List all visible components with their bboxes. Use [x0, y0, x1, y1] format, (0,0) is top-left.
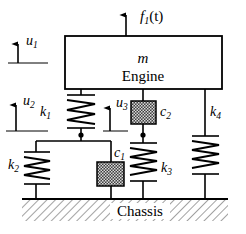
engine-mass-symbol: m	[138, 50, 149, 66]
displacement-indicator-u3: u3	[103, 95, 128, 131]
spring-label-k4: k4	[210, 104, 221, 121]
engine-mount-diagram: f1(t) u1 m Engine k	[0, 0, 246, 234]
spring-label-k1: k1	[40, 104, 51, 121]
spring-k4-coil	[192, 141, 219, 168]
spring-label-k2: k2	[8, 157, 19, 174]
spring-k3-coil	[130, 148, 157, 175]
force-arrow-f1: f1(t)	[126, 8, 163, 36]
spring-k2-coil	[24, 157, 50, 179]
engine-mass-block: m Engine	[65, 36, 222, 89]
damper-c2-body	[131, 101, 156, 124]
damper-c1-body	[97, 162, 124, 186]
mount-branch-3: k4	[192, 89, 221, 199]
engine-name-label: Engine	[122, 68, 165, 84]
damper-label-c2: c2	[160, 104, 171, 121]
damper-label-c1: c1	[114, 145, 125, 162]
diagram-canvas: f1(t) u1 m Engine k	[0, 0, 246, 234]
spring-label-k3: k3	[161, 160, 172, 177]
u1-label: u1	[26, 33, 38, 50]
u3-label: u3	[116, 95, 128, 112]
chassis-ground: Chassis	[22, 199, 228, 221]
mount-branch-2: c2 k3	[130, 89, 172, 199]
chassis-label: Chassis	[117, 203, 163, 219]
u2-label: u2	[23, 93, 35, 110]
spring-k1-coil	[67, 100, 95, 124]
displacement-indicator-u1: u1	[8, 33, 48, 63]
force-label-f1: f1(t)	[140, 8, 163, 26]
